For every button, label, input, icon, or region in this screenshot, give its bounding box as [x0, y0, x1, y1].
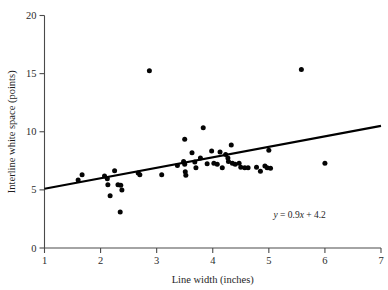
- data-point: [118, 183, 123, 188]
- points-layer: [76, 67, 328, 214]
- data-point: [322, 161, 327, 166]
- data-point: [209, 148, 214, 153]
- y-tick-label: 15: [26, 68, 37, 79]
- scatter-plot-figure: 05101520 1234567 Line width (inches) Int…: [0, 0, 388, 290]
- y-tick-label: 0: [31, 243, 36, 254]
- data-point: [220, 165, 225, 170]
- y-tick-label: 20: [26, 10, 37, 21]
- regression-line: [45, 126, 382, 189]
- data-point: [215, 162, 220, 167]
- data-point: [205, 161, 210, 166]
- data-point: [182, 137, 187, 142]
- x-tick-label: 6: [322, 255, 327, 266]
- data-point: [159, 172, 164, 177]
- y-tick-label: 10: [26, 126, 37, 137]
- data-point: [258, 169, 263, 174]
- data-point: [112, 168, 117, 173]
- data-point: [80, 172, 85, 177]
- x-tick-label: 3: [154, 255, 159, 266]
- axes-frame: [45, 16, 382, 249]
- y-tick-label: 5: [31, 184, 36, 195]
- data-point: [201, 125, 206, 130]
- y-axis-tick-labels: 05101520: [26, 10, 37, 254]
- regression-equation-label: y = 0.9x + 4.2: [272, 210, 326, 220]
- data-point: [147, 68, 152, 73]
- x-axis-title: Line width (inches): [172, 274, 255, 286]
- y-axis-title: Interline white space (points): [6, 70, 18, 193]
- data-point: [246, 165, 251, 170]
- x-axis-tick-labels: 1234567: [42, 255, 384, 266]
- x-tick-label: 4: [210, 255, 216, 266]
- data-point: [254, 165, 259, 170]
- data-point: [266, 148, 271, 153]
- data-point: [193, 165, 198, 170]
- y-axis-ticks: [40, 16, 45, 249]
- data-point: [299, 67, 304, 72]
- x-tick-label: 2: [98, 255, 103, 266]
- x-tick-label: 7: [378, 255, 383, 266]
- data-point: [105, 182, 110, 187]
- x-tick-label: 5: [266, 255, 271, 266]
- data-point: [108, 193, 113, 198]
- data-point: [183, 173, 188, 178]
- x-axis-ticks: [45, 248, 382, 253]
- data-point: [268, 166, 273, 171]
- data-point: [119, 187, 124, 192]
- data-point: [229, 143, 234, 148]
- data-point: [118, 209, 123, 214]
- x-tick-label: 1: [42, 255, 47, 266]
- data-point: [190, 150, 195, 155]
- data-point: [218, 150, 223, 155]
- chart-canvas: 05101520 1234567 Line width (inches) Int…: [0, 0, 388, 290]
- data-point: [137, 172, 142, 177]
